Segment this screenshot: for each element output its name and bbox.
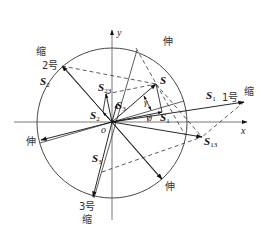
label-S23: S23 (98, 81, 112, 95)
vector-S13 (112, 122, 202, 137)
vector-S23-side (103, 94, 106, 112)
label-S2-small: S2 (90, 109, 100, 123)
label-shrink-3: 缩 (82, 213, 92, 225)
label-shrink-1: 缩 (244, 85, 254, 97)
label-shrink-2: 缩 (36, 45, 46, 57)
label-num-1: 1号 (222, 92, 238, 103)
label-theta: θ (148, 114, 152, 123)
label-stretch-bottom: 伸 (165, 181, 175, 192)
x-axis-label: x (240, 125, 246, 136)
label-S13: S13 (204, 135, 218, 149)
label-num-3: 3号 (79, 201, 95, 212)
vector-S23 (106, 94, 112, 122)
vector-diagram: y x o S S1 S2 S23 S3 S2 S1 S13 S3 γ θ 缩 … (0, 0, 264, 238)
vector-stretch-bottom (112, 122, 162, 179)
label-S1-big: S1 (206, 89, 216, 103)
label-S2-big: S2 (40, 75, 50, 89)
label-S3-small: S3 (116, 99, 126, 113)
origin-label: o (101, 124, 106, 135)
label-stretch-top: 伸 (163, 36, 173, 47)
label-num-2: 2号 (42, 60, 58, 71)
S-to-S1-line (156, 84, 162, 112)
y-axis-label: y (116, 27, 122, 38)
label-S3-lower: S3 (92, 152, 102, 166)
label-stretch-left: 伸 (26, 136, 36, 147)
label-S: S (160, 74, 166, 86)
label-gamma: γ (144, 97, 148, 107)
vector-S1-small (112, 112, 162, 122)
